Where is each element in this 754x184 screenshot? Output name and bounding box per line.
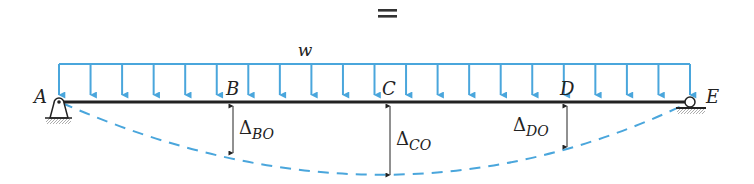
point-label-e: E	[705, 86, 719, 107]
svg-text:ΔDO: ΔDO	[513, 114, 549, 139]
load-arrows	[59, 64, 690, 95]
svg-text:ΔBO: ΔBO	[239, 117, 275, 142]
equals-sign	[378, 9, 397, 18]
deflection-label-co: CO	[409, 137, 432, 153]
delta-symbol: Δ	[513, 114, 526, 135]
delta-symbol: Δ	[396, 128, 409, 149]
deflection-dimension-d: ΔDO	[513, 106, 567, 147]
load-label-w: w	[298, 40, 313, 60]
deflection-label-bo: BO	[251, 126, 275, 142]
beam-deflection-diagram: w A B C D E ΔBO ΔCO ΔDO	[0, 0, 754, 184]
delta-symbol: Δ	[239, 117, 252, 138]
point-label-a: A	[32, 86, 47, 107]
point-label-d: D	[559, 78, 575, 99]
point-label-b: B	[225, 78, 239, 99]
deflection-dimension-b: ΔBO	[233, 106, 275, 153]
deflection-label-do: DO	[525, 123, 549, 139]
svg-text:ΔCO: ΔCO	[396, 128, 432, 153]
deflection-dimension-c: ΔCO	[390, 106, 432, 175]
roller-support-icon	[676, 97, 706, 114]
point-label-c: C	[382, 78, 396, 99]
distributed-load: w	[59, 40, 690, 95]
deflected-shape-curve	[62, 102, 690, 175]
